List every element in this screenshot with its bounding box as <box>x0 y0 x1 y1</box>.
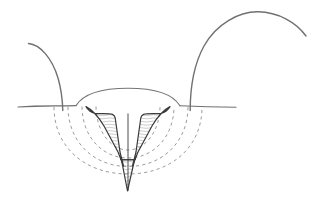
figure-container: Cross-section line drawing of skin with … <box>0 0 317 199</box>
skin-cross-section-diagram: Cross-section line drawing of skin with … <box>0 0 317 199</box>
